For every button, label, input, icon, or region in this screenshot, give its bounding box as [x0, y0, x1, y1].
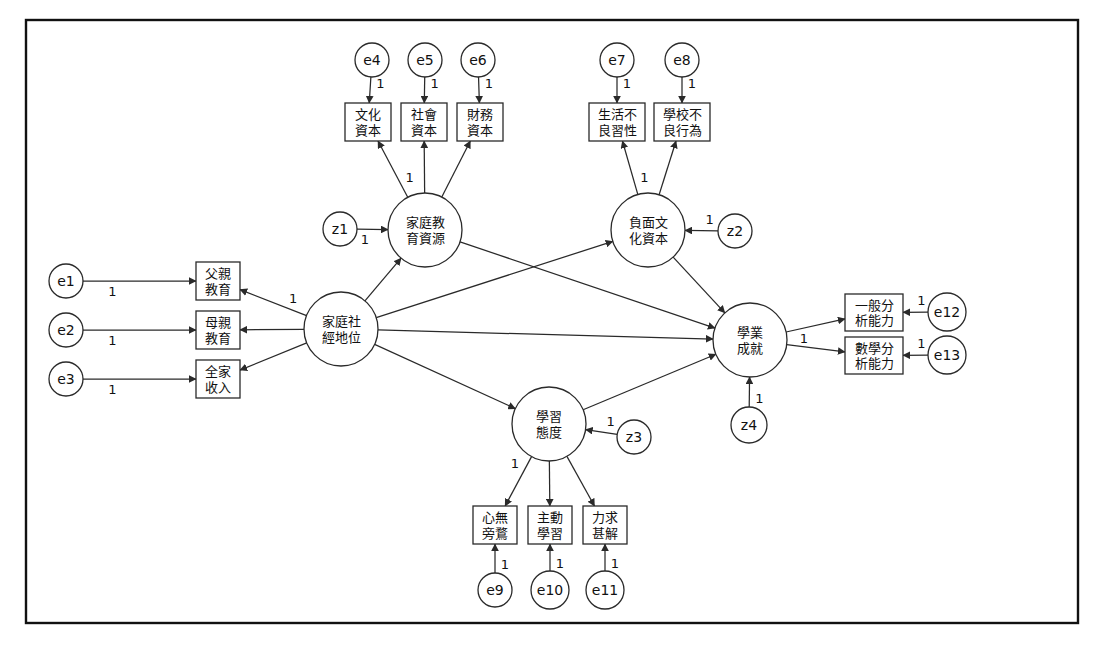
learn_attitude-label: 態度	[536, 425, 562, 440]
e13-label: e13	[934, 347, 960, 363]
cultural_capital-label: 資本	[355, 123, 381, 138]
path-ses-to-family_income	[240, 343, 307, 370]
error-e4[interactable]: e4	[355, 43, 389, 77]
coefficient-label: 1	[917, 293, 925, 308]
general_analysis-label: 析能力	[855, 313, 894, 328]
coefficient-label: 1	[511, 456, 519, 471]
path-ses-to-achievement	[378, 330, 713, 339]
coefficient-label: 1	[688, 76, 696, 91]
school_misbehavior-label: 良行為	[663, 123, 702, 138]
learn_attitude-label: 學習	[536, 409, 562, 424]
fam_edu_res-label: 育資源	[406, 231, 445, 246]
e2-label: e2	[57, 322, 75, 338]
z2-label: z2	[727, 223, 743, 239]
focus_no_distract-label: 心無	[482, 510, 508, 525]
disturbance-z4[interactable]: z4	[731, 407, 767, 443]
observed-seek_understanding[interactable]: 力求甚解	[583, 506, 627, 544]
coefficient-label: 1	[501, 557, 509, 572]
path-learn_attitude-to-achievement	[583, 354, 716, 409]
path-fam_edu_res-to-financial_capital	[442, 141, 471, 197]
latent-learn_attitude[interactable]: 學習態度	[512, 387, 586, 461]
financial_capital-label: 資本	[467, 123, 493, 138]
path-z3-to-learn_attitude	[586, 430, 618, 435]
diagram-canvas: 文化資本社會資本財務資本生活不良習性學校不良行為父親教育母親教育全家收入一般分析…	[0, 0, 1097, 648]
bad_life_habit-label: 良習性	[598, 123, 637, 138]
coefficient-label: 1	[289, 291, 297, 306]
active_learning-label: 學習	[537, 526, 563, 541]
e6-label: e6	[469, 52, 487, 68]
mother_education-label: 母親	[205, 315, 231, 330]
general_analysis-label: 一般分	[855, 298, 894, 313]
e9-label: e9	[486, 582, 504, 598]
observed-active_learning[interactable]: 主動學習	[528, 506, 572, 544]
observed-school_misbehavior[interactable]: 學校不良行為	[654, 103, 710, 141]
math_analysis-label: 析能力	[855, 356, 894, 371]
neg_culture-label: 化資本	[629, 231, 668, 246]
coefficient-label: 1	[917, 336, 925, 351]
path-neg_culture-to-bad_life_habit	[622, 141, 637, 194]
latent-ses[interactable]: 家庭社經地位	[304, 292, 378, 366]
error-e3[interactable]: e3	[49, 362, 83, 396]
error-e7[interactable]: e7	[600, 43, 634, 77]
active_learning-label: 主動	[537, 510, 563, 525]
error-e8[interactable]: e8	[665, 43, 699, 77]
father_education-label: 教育	[205, 282, 231, 297]
social_capital-label: 社會	[411, 107, 437, 122]
path-ses-to-learn_attitude	[375, 344, 516, 408]
z4-label: z4	[741, 417, 757, 433]
social_capital-label: 資本	[411, 123, 437, 138]
error-e12[interactable]: e12	[928, 293, 966, 331]
observed-focus_no_distract[interactable]: 心無旁鶩	[473, 506, 517, 544]
latent-fam_edu_res[interactable]: 家庭教育資源	[388, 193, 462, 267]
path-achievement-to-math_analysis	[787, 345, 845, 352]
e8-label: e8	[673, 52, 691, 68]
latent-neg_culture[interactable]: 負面文化資本	[611, 193, 685, 267]
sem-path-diagram: 文化資本社會資本財務資本生活不良習性學校不良行為父親教育母親教育全家收入一般分析…	[0, 0, 1097, 648]
coefficient-label: 1	[640, 170, 648, 185]
error-e10[interactable]: e10	[531, 571, 569, 609]
observed-mother_education[interactable]: 母親教育	[196, 311, 240, 349]
error-e5[interactable]: e5	[408, 43, 442, 77]
path-learn_attitude-to-seek_understanding	[567, 456, 595, 506]
fam_edu_res-label: 家庭教	[406, 215, 445, 230]
observed-bad_life_habit[interactable]: 生活不良習性	[589, 103, 645, 141]
observed-family_income[interactable]: 全家收入	[196, 360, 240, 398]
disturbance-z2[interactable]: z2	[718, 214, 752, 248]
error-e6[interactable]: e6	[461, 43, 495, 77]
observed-father_education[interactable]: 父親教育	[196, 262, 240, 300]
coefficient-label: 1	[611, 556, 619, 571]
observed-social_capital[interactable]: 社會資本	[401, 103, 447, 141]
e12-label: e12	[934, 304, 960, 320]
observed-cultural_capital[interactable]: 文化資本	[345, 103, 391, 141]
family_income-label: 收入	[205, 380, 231, 395]
path-neg_culture-to-school_misbehavior	[659, 141, 676, 195]
achievement-label: 成就	[737, 341, 763, 356]
coefficient-label: 1	[108, 333, 116, 348]
coefficient-label: 1	[800, 331, 808, 346]
math_analysis-label: 數學分	[855, 341, 894, 356]
error-e11[interactable]: e11	[586, 571, 624, 609]
e1-label: e1	[57, 273, 75, 289]
e11-label: e11	[592, 582, 618, 598]
coefficient-label: 1	[108, 382, 116, 397]
disturbance-z3[interactable]: z3	[617, 420, 651, 454]
error-e9[interactable]: e9	[478, 573, 512, 607]
coefficient-label: 1	[755, 391, 763, 406]
error-e2[interactable]: e2	[49, 313, 83, 347]
error-e13[interactable]: e13	[928, 336, 966, 374]
observed-math_analysis[interactable]: 數學分析能力	[845, 337, 903, 374]
error-e1[interactable]: e1	[49, 264, 83, 298]
e10-label: e10	[537, 582, 563, 598]
coefficient-label: 1	[361, 232, 369, 247]
coefficient-label: 1	[485, 76, 493, 91]
father_education-label: 父親	[205, 266, 231, 281]
coefficient-label: 1	[376, 76, 384, 91]
path-achievement-to-general_analysis	[786, 319, 845, 332]
e3-label: e3	[57, 371, 75, 387]
disturbance-z1[interactable]: z1	[323, 212, 357, 246]
coefficient-label: 1	[623, 76, 631, 91]
latent-achievement[interactable]: 學業成就	[713, 303, 787, 377]
observed-general_analysis[interactable]: 一般分析能力	[845, 294, 903, 331]
e5-label: e5	[416, 52, 434, 68]
observed-financial_capital[interactable]: 財務資本	[457, 103, 503, 141]
